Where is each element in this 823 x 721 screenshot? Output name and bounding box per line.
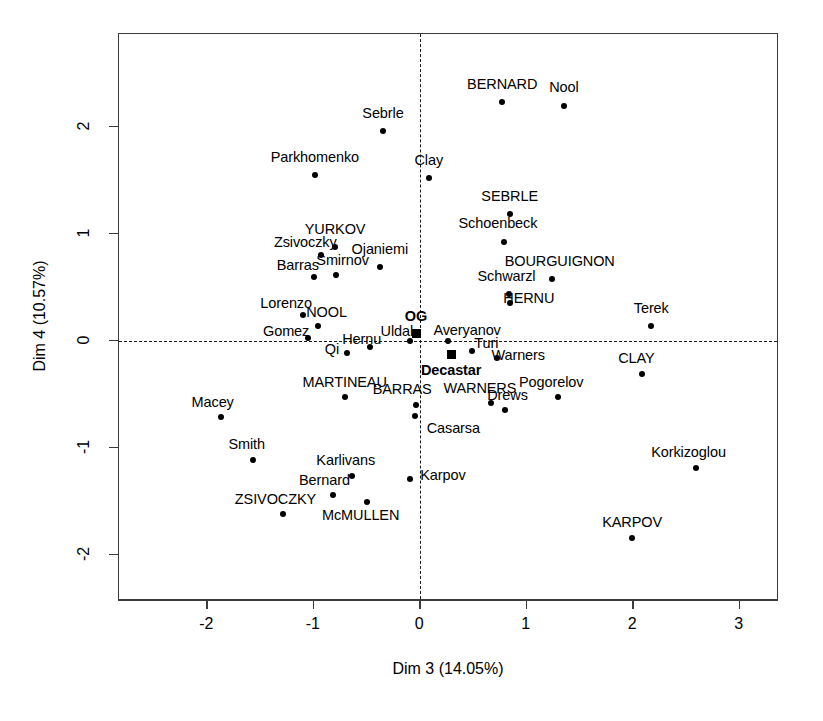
data-point-label: Qi [325,342,339,357]
data-point [250,457,256,463]
data-point [333,272,339,278]
data-point-label: Casarsa [427,421,480,436]
data-point-label: Clay [414,153,443,168]
x-axis-tick-label: -1 [306,615,320,633]
data-point-label: KARPOV [602,515,662,530]
data-point-label: Decastar [421,363,481,378]
data-point [447,350,456,359]
data-point [342,394,348,400]
data-point [629,535,635,541]
y-axis-tick [109,447,118,448]
data-point-label: CLAY [618,351,654,366]
x-axis-tick [206,600,207,609]
data-point-label: Zsivoczky [274,235,337,250]
y-axis-tick [109,340,118,341]
data-point-label: Parkhomenko [271,150,359,165]
x-axis-tick [313,600,314,609]
data-point-label: Barras [277,258,319,273]
data-point-label: Nool [549,80,578,95]
data-point-label: Terek [634,301,669,316]
data-point [445,338,451,344]
data-point [218,414,224,420]
y-axis-line [118,33,119,600]
data-point [555,394,561,400]
data-point [344,350,350,356]
data-point-label: Macey [192,395,234,410]
data-point [330,492,336,498]
y-axis-tick-label: 2 [75,122,93,131]
data-point [311,274,317,280]
data-point-label: Karpov [420,468,465,483]
data-point [315,323,321,329]
y-axis-title: Dim 4 (10.57%) [31,260,49,371]
y-axis-tick [109,233,118,234]
x-axis-tick [419,600,420,609]
data-point [502,407,508,413]
data-point [426,175,432,181]
x-axis-tick-label: -2 [199,615,213,633]
data-point [280,511,286,517]
data-point-label: ZSIVOCZKY [235,492,316,507]
data-point-label: Warners [491,348,545,363]
data-point-label: Schwarzl [477,269,535,284]
y-axis-tick-label: -2 [75,547,93,561]
y-axis-tick-label: 1 [75,229,93,238]
data-point [412,413,418,419]
data-point-label: Pogorelov [519,375,583,390]
data-point [380,128,386,134]
data-point [648,323,654,329]
x-axis-tick-label: 1 [521,615,530,633]
data-point-label: SEBRLE [481,189,538,204]
data-point [413,402,419,408]
data-point-label: Karlivans [316,453,375,468]
data-point [364,499,370,505]
data-point-label: Bernard [299,473,350,488]
data-point [561,103,567,109]
x-axis-tick [739,600,740,609]
data-point-label: Smith [228,437,265,452]
data-point-label: McMULLEN [322,508,399,523]
x-axis-tick-label: 3 [734,615,743,633]
data-point [693,465,699,471]
data-point-label: HERNU [503,291,554,306]
x-axis-tick [632,600,633,609]
x-axis-tick-label: 0 [415,615,424,633]
data-point-label: Lorenzo [260,296,312,311]
data-point [412,329,421,338]
data-point [501,239,507,245]
data-point [499,99,505,105]
data-point-label: Drews [487,388,528,403]
data-point [312,172,318,178]
y-axis-tick [109,126,118,127]
data-point [639,371,645,377]
data-point-label: Schoenbeck [459,216,538,231]
x-axis-line [118,600,778,601]
data-point-label: Korkizoglou [651,445,726,460]
scatter-plot-figure: SebrleBERNARDNoolParkhomenkoClaySEBRLESc… [0,0,823,721]
y-axis-tick [109,554,118,555]
data-point-label: OG [405,309,427,324]
plot-area: SebrleBERNARDNoolParkhomenkoClaySEBRLESc… [118,33,778,600]
data-point-label: Uldal [381,324,414,339]
data-point [377,264,383,270]
y-axis-tick-label: 0 [75,336,93,345]
x-axis-title: Dim 3 (14.05%) [392,660,503,678]
x-axis-tick [526,600,527,609]
data-point-label: BERNARD [467,77,537,92]
data-point-label: NOOL [306,305,347,320]
data-point-label: Smirnov [316,253,368,268]
x-axis-tick-label: 2 [628,615,637,633]
data-point-label: Sebrle [362,106,403,121]
y-axis-tick-label: -1 [75,440,93,454]
data-point [349,473,355,479]
data-point [407,476,413,482]
data-point-label: Gomez [263,324,309,339]
data-point-label: BOURGUIGNON [505,254,615,269]
data-point-label: BARRAS [373,382,432,397]
data-point-label: Hernu [342,332,381,347]
data-point [549,276,555,282]
